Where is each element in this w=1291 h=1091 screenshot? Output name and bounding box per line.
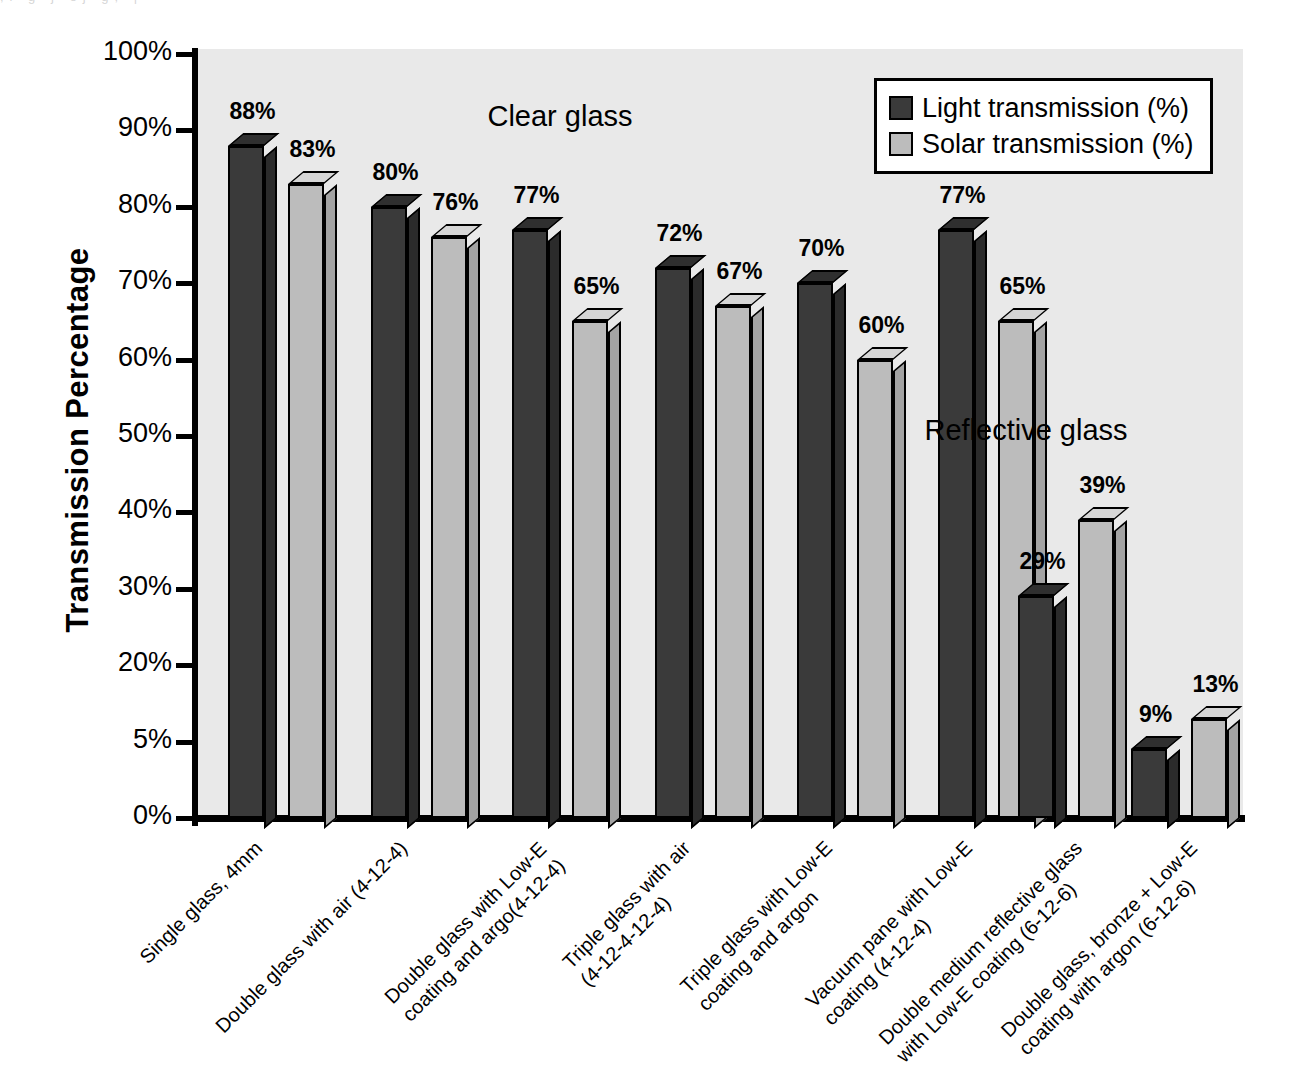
top-edge-artifact: ,l g j ej g, | xyxy=(0,0,1291,14)
bar-face xyxy=(1078,520,1114,818)
bar-value-label: 39% xyxy=(1066,472,1139,499)
legend-label-light: Light transmission (%) xyxy=(922,93,1189,124)
bar-face xyxy=(288,184,324,818)
bar-value-label: 67% xyxy=(703,258,776,285)
y-axis-tick xyxy=(176,510,194,515)
bar-side xyxy=(264,146,277,829)
bar-face xyxy=(1018,596,1054,818)
legend-item[interactable]: Solar transmission (%) xyxy=(889,126,1194,162)
bar-face xyxy=(371,207,407,818)
bar-side xyxy=(751,306,764,829)
bar-value-label: 13% xyxy=(1179,671,1252,698)
group-annotation: Clear glass xyxy=(487,100,632,133)
bar-side xyxy=(1227,719,1240,829)
bar-value-label: 65% xyxy=(560,273,633,300)
bar-value-label: 88% xyxy=(216,98,289,125)
y-axis-tick xyxy=(176,128,194,133)
bar-face xyxy=(655,268,691,818)
y-axis-tick xyxy=(176,281,194,286)
y-axis-tick-label: 100% xyxy=(52,36,172,67)
bar-side xyxy=(893,360,906,829)
legend-swatch-solar xyxy=(889,132,913,156)
bar-value-label: 65% xyxy=(986,273,1059,300)
bar-side xyxy=(1114,520,1127,829)
y-axis-tick-label: 70% xyxy=(52,265,172,296)
bar-face xyxy=(431,237,467,818)
bar-side xyxy=(324,184,337,829)
bar-face xyxy=(857,360,893,818)
bar-side xyxy=(608,321,621,829)
y-axis-tick-label: 80% xyxy=(52,189,172,220)
y-axis-tick-label: 50% xyxy=(52,418,172,449)
bar-solar-transmission[interactable] xyxy=(857,360,893,818)
bar-light-transmission[interactable] xyxy=(371,207,407,818)
x-axis-category-label-line: Single glass, 4mm xyxy=(134,836,267,969)
bar-side xyxy=(548,230,561,829)
y-axis-tick xyxy=(176,587,194,592)
x-axis-category-label: Double glass with Low-Ecoating and argo(… xyxy=(379,836,570,1027)
chart-legend: Light transmission (%) Solar transmissio… xyxy=(874,78,1213,174)
bar-value-label: 70% xyxy=(785,235,858,262)
bar-value-label: 83% xyxy=(276,136,349,163)
bar-light-transmission[interactable] xyxy=(1131,749,1167,818)
y-axis-tick xyxy=(176,358,194,363)
y-axis-tick xyxy=(176,740,194,745)
bar-value-label: 77% xyxy=(500,182,573,209)
bar-side xyxy=(467,237,480,829)
bar-chart: ,l g j ej g, | Transmission Percentage 1… xyxy=(0,0,1291,1091)
legend-swatch-light xyxy=(889,96,913,120)
y-axis-tick-label: 20% xyxy=(52,647,172,678)
bar-light-transmission[interactable] xyxy=(938,230,974,818)
y-axis-tick xyxy=(176,663,194,668)
bar-face xyxy=(512,230,548,818)
bar-light-transmission[interactable] xyxy=(1018,596,1054,818)
y-axis-tick-label: 40% xyxy=(52,494,172,525)
x-axis-category-label-line: Double glass with Low-E xyxy=(379,836,552,1009)
bar-solar-transmission[interactable] xyxy=(288,184,324,818)
bar-light-transmission[interactable] xyxy=(512,230,548,818)
bar-value-label: 77% xyxy=(926,182,999,209)
bar-value-label: 80% xyxy=(359,159,432,186)
bar-face xyxy=(1131,749,1167,818)
bar-light-transmission[interactable] xyxy=(655,268,691,818)
bar-value-label: 76% xyxy=(419,189,492,216)
bar-face xyxy=(715,306,751,818)
y-axis-tick xyxy=(176,205,194,210)
bar-side xyxy=(974,230,987,829)
bar-solar-transmission[interactable] xyxy=(572,321,608,818)
y-axis-tick-label: 0% xyxy=(52,800,172,831)
bar-side xyxy=(1054,597,1067,829)
bar-face xyxy=(1191,719,1227,818)
x-axis-category-label: Single glass, 4mm xyxy=(134,836,267,969)
bar-side xyxy=(1167,749,1180,829)
y-axis-tick xyxy=(176,816,194,821)
y-axis-tick-label: 60% xyxy=(52,342,172,373)
bar-solar-transmission[interactable] xyxy=(431,237,467,818)
bar-solar-transmission[interactable] xyxy=(715,306,751,818)
bar-face xyxy=(797,283,833,818)
bar-side xyxy=(691,268,704,829)
legend-item[interactable]: Light transmission (%) xyxy=(889,90,1194,126)
legend-label-solar: Solar transmission (%) xyxy=(922,129,1194,160)
x-axis-category-label: Double glass, bronze + Low-Ecoating with… xyxy=(996,836,1220,1060)
bar-face xyxy=(572,321,608,818)
y-axis-tick xyxy=(176,52,194,57)
bar-side xyxy=(407,207,420,829)
bar-value-label: 72% xyxy=(643,220,716,247)
bar-face xyxy=(938,230,974,818)
bar-light-transmission[interactable] xyxy=(228,146,264,818)
bar-value-label: 60% xyxy=(845,312,918,339)
y-axis-tick-label: 30% xyxy=(52,571,172,602)
bar-light-transmission[interactable] xyxy=(797,283,833,818)
bar-side xyxy=(833,283,846,829)
y-axis-tick-label: 5% xyxy=(52,724,172,755)
bar-face xyxy=(228,146,264,818)
x-axis-category-label-line: coating and argo(4-12-4) xyxy=(397,854,570,1027)
bar-solar-transmission[interactable] xyxy=(1078,520,1114,818)
bar-value-label: 29% xyxy=(1006,548,1079,575)
y-axis-tick xyxy=(176,434,194,439)
bar-value-label: 9% xyxy=(1119,701,1192,728)
group-annotation: Reflective glass xyxy=(924,414,1127,447)
bar-solar-transmission[interactable] xyxy=(1191,719,1227,818)
y-axis-tick-label: 90% xyxy=(52,112,172,143)
